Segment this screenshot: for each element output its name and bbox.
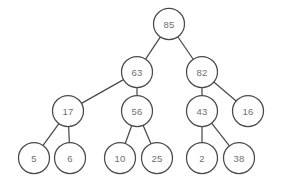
tree-edge	[43, 124, 59, 146]
tree-node: 82	[187, 57, 218, 88]
tree-node: 25	[142, 143, 173, 174]
node-label: 43	[197, 106, 208, 117]
binary-tree-figure: 85638217564316561025238	[0, 0, 282, 185]
tree-edge	[146, 37, 161, 59]
node-label: 5	[31, 153, 36, 164]
tree-node: 10	[105, 143, 136, 174]
node-label: 16	[243, 106, 254, 117]
tree-node: 5	[19, 143, 50, 174]
node-label: 56	[132, 106, 143, 117]
node-label: 82	[197, 67, 208, 78]
tree-edge	[143, 125, 151, 143]
node-label: 25	[152, 153, 163, 164]
tree-node: 63	[122, 57, 153, 88]
tree-node: 38	[224, 143, 255, 174]
tree-edge	[81, 80, 123, 104]
tree-edges	[43, 37, 236, 146]
node-label: 2	[199, 153, 204, 164]
tree-node: 16	[233, 96, 264, 127]
tree-node: 17	[53, 96, 84, 127]
node-label: 38	[234, 153, 245, 164]
tree-edge	[125, 126, 131, 144]
tree-nodes: 85638217564316561025238	[19, 9, 264, 174]
tree-node: 6	[55, 143, 86, 174]
tree-edge	[214, 82, 236, 101]
node-label: 6	[67, 153, 72, 164]
node-label: 10	[115, 153, 126, 164]
tree-node: 85	[154, 9, 185, 40]
tree-node: 2	[187, 143, 218, 174]
tree-node: 43	[187, 96, 218, 127]
node-label: 85	[164, 19, 175, 30]
tree-edge	[178, 37, 193, 59]
node-label: 17	[63, 106, 74, 117]
tree-node: 56	[122, 96, 153, 127]
tree-edge	[69, 126, 70, 142]
node-label: 63	[132, 67, 143, 78]
tree-canvas: 85638217564316561025238	[0, 0, 282, 185]
tree-edge	[212, 123, 230, 146]
